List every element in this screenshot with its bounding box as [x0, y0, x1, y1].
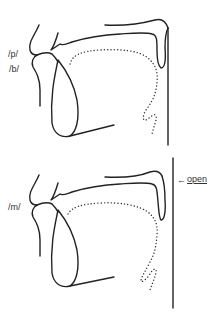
upper-lip — [30, 175, 39, 205]
palate-top — [105, 171, 162, 177]
lower-lip — [32, 205, 40, 256]
vocal-tract-diagram-bottom — [0, 150, 219, 321]
vocal-tract-diagram-top — [0, 0, 219, 160]
upper-lip — [30, 25, 39, 55]
upper-teeth — [51, 28, 168, 68]
lower-jaw — [52, 210, 78, 287]
palate-top — [105, 19, 168, 28]
tongue-outline — [70, 50, 157, 134]
lower-lip — [32, 55, 40, 106]
lower-jaw — [52, 60, 78, 137]
lip-junction — [37, 53, 58, 62]
lip-junction — [37, 203, 58, 212]
jaw-line — [70, 277, 114, 286]
panel-bilabial-oral: /p/ /b/ — [0, 0, 219, 160]
panel-bilabial-nasal: /m/ ← open — [0, 150, 219, 321]
